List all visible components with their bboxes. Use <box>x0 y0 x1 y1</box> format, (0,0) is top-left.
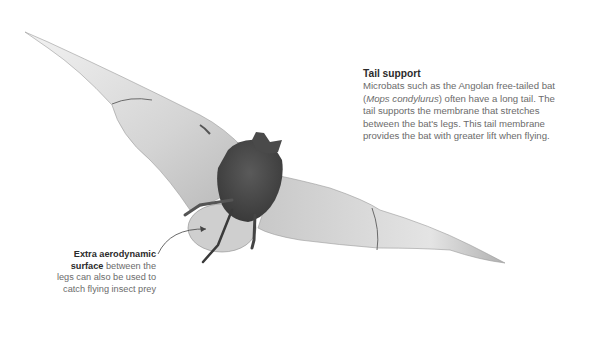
callout-line: legs can also be used to <box>36 272 156 284</box>
callout-line: between the bat's legs. This tail membra… <box>363 118 598 131</box>
callout-line: tail supports the membrane that stretche… <box>363 105 598 118</box>
bat-illustration <box>0 0 598 350</box>
membrane-callout: Extra aerodynamic surface between the le… <box>36 249 156 295</box>
left-wing <box>25 32 250 210</box>
callout-bold: Extra aerodynamic <box>74 249 156 259</box>
callout-line: (Mops condylurus) often have a long tail… <box>363 93 598 106</box>
callout-line: catch flying insect prey <box>36 284 156 296</box>
callout-line: Microbats such as the Angolan free-taile… <box>363 80 598 93</box>
callout-bold: surface <box>71 261 104 271</box>
callout-line: provides the bat with greater lift when … <box>363 130 598 143</box>
species-name: Mops condylurus <box>366 93 439 104</box>
callout-title: Tail support <box>363 67 598 80</box>
tail-support-callout: Tail support Microbats such as the Angol… <box>363 67 598 143</box>
right-wing <box>258 175 505 263</box>
